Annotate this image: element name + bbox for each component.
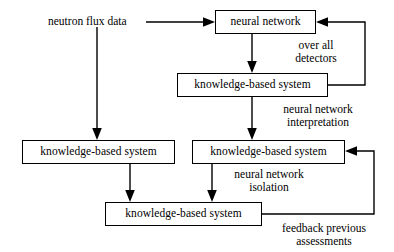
edge-input-branch-down	[92, 27, 102, 140]
label-feedback-previous-assessments-line-1: feedback previous	[268, 222, 380, 235]
node-knowledge-based-system-top-label: knowledge-based system	[194, 79, 310, 91]
label-neutron-flux-data: neutron flux data	[48, 15, 144, 28]
label-over-all-detectors-line-1: over all	[285, 39, 347, 52]
edge-kbs-top-to-kbs-right	[247, 97, 257, 140]
node-knowledge-based-system-top[interactable]: knowledge-based system	[177, 73, 328, 97]
label-neural-network-isolation: neural network isolation	[227, 168, 311, 194]
label-feedback-previous-assessments-line-2: assessments	[268, 235, 380, 248]
edge-kbs-left-to-kbs-bottom	[125, 164, 135, 202]
label-neural-network-isolation-line-2: isolation	[227, 181, 311, 194]
label-neural-network-interpretation: neural network interpretation	[276, 103, 360, 129]
edge-kbs-right-to-kbs-bottom	[207, 164, 217, 202]
edge-neural-network-to-kbs-top	[247, 34, 257, 73]
label-neural-network-interpretation-line-1: neural network	[276, 103, 360, 116]
label-over-all-detectors-line-2: detectors	[285, 52, 347, 65]
label-feedback-previous-assessments: feedback previous assessments	[268, 222, 380, 248]
label-neural-network-interpretation-line-2: interpretation	[276, 116, 360, 129]
label-neutron-flux-data-line-1: neutron flux data	[48, 15, 144, 28]
node-knowledge-based-system-bottom-label: knowledge-based system	[125, 208, 241, 220]
node-neural-network[interactable]: neural network	[215, 10, 316, 34]
node-knowledge-based-system-right-label: knowledge-based system	[210, 146, 326, 158]
label-over-all-detectors: over all detectors	[285, 39, 347, 65]
flowchart-diagram: neural network knowledge-based system kn…	[0, 0, 394, 252]
node-knowledge-based-system-left[interactable]: knowledge-based system	[22, 140, 175, 164]
node-neural-network-label: neural network	[231, 16, 301, 28]
edge-input-to-neural-network	[146, 17, 215, 27]
node-knowledge-based-system-bottom[interactable]: knowledge-based system	[105, 202, 262, 226]
label-neural-network-isolation-line-1: neural network	[227, 168, 311, 181]
node-knowledge-based-system-right[interactable]: knowledge-based system	[192, 140, 345, 164]
node-knowledge-based-system-left-label: knowledge-based system	[40, 146, 156, 158]
